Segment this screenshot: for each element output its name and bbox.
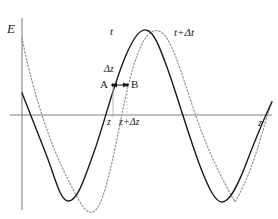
tick-label-z: z — [107, 117, 111, 127]
tick-label-z-plus-delta-z: z+Δz — [119, 117, 139, 127]
delta-z-label: Δz — [104, 64, 114, 74]
x-axis-label: z — [258, 117, 262, 128]
point-label-a: A — [100, 79, 108, 90]
point-label-b: B — [131, 79, 138, 90]
plot-canvas — [0, 0, 278, 219]
curve-label-t-plus-delta-t: t+Δt — [174, 27, 194, 38]
point-marker-a — [111, 83, 114, 86]
wave-propagation-figure: E t t+Δt Δz A B z z+Δz z — [0, 0, 278, 219]
curve-label-t: t — [110, 26, 113, 37]
curve-t-plus-delta-t — [22, 31, 272, 213]
y-axis-label: E — [7, 22, 15, 35]
curve-t — [22, 30, 272, 202]
point-marker-b — [125, 83, 128, 86]
